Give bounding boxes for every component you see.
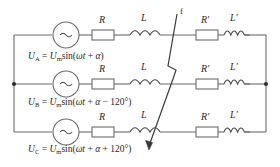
label-r-phase-a: R	[99, 15, 105, 25]
label-rp-phase-b: R′	[201, 64, 209, 74]
phase-a-row	[53, 22, 250, 48]
phase-b-resistor-rp	[196, 79, 218, 89]
equation-phase-c: UC = Umsin(ωt + α + 120°)	[28, 145, 131, 155]
phase-a-resistor-rp	[196, 30, 218, 40]
label-lp-phase-b: L′	[230, 62, 238, 72]
left-bus-junction-dot	[12, 82, 16, 86]
phase-a-inductor-lp	[224, 31, 244, 35]
phase-c-resistor-rp	[196, 127, 218, 137]
phase-a-inductor-l	[130, 31, 160, 35]
circuit-diagram: R L R′ L′ R L R′ L′ R L R′ L′ f UA = Ums…	[0, 0, 280, 167]
right-bus-junction-dot	[264, 82, 268, 86]
label-l-phase-b: L	[141, 62, 147, 72]
fault-line-arrowhead-icon	[146, 140, 153, 150]
label-l-phase-c: L	[141, 110, 147, 120]
phase-b-inductor-lp	[224, 80, 244, 84]
phase-c-resistor-r	[92, 127, 114, 137]
phase-b-row	[53, 71, 250, 97]
circuit-schematic-canvas	[0, 0, 280, 167]
left-bus	[12, 35, 52, 132]
phase-c-inductor-lp	[224, 128, 244, 132]
fault-marker-label: f	[180, 7, 183, 16]
label-r-phase-c: R	[99, 112, 105, 122]
phase-a-resistor-r	[92, 30, 114, 40]
label-rp-phase-c: R′	[201, 112, 209, 122]
phase-c-row	[53, 119, 250, 145]
phase-b-inductor-l	[130, 80, 160, 84]
label-l-phase-a: L	[141, 13, 147, 23]
equation-phase-a: UA = Umsin(ωt + α)	[28, 52, 104, 62]
phase-b-resistor-r	[92, 79, 114, 89]
label-rp-phase-a: R′	[201, 15, 209, 25]
label-lp-phase-a: L′	[230, 13, 238, 23]
label-r-phase-b: R	[99, 64, 105, 74]
label-lp-phase-c: L′	[230, 110, 238, 120]
equation-phase-b: UB = Umsin(ωt + α − 120°)	[28, 98, 131, 108]
